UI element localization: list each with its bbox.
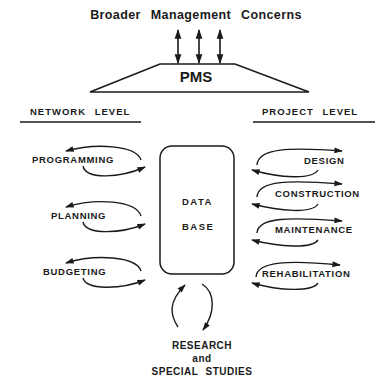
activity-programming: PROGRAMMING: [32, 154, 114, 165]
database-line2: BASE: [182, 221, 214, 232]
activity-budgeting: BUDGETING: [43, 266, 106, 277]
database-box: [160, 146, 234, 274]
pms-label: PMS: [0, 68, 392, 85]
network-level-heading: NETWORK LEVEL: [30, 106, 130, 117]
activity-maintenance: MAINTENANCE: [275, 224, 353, 235]
research-line1: RESEARCH: [122, 339, 282, 352]
research-loop-arrows: [172, 284, 212, 330]
project-level-heading: PROJECT LEVEL: [262, 106, 358, 117]
activity-rehabilitation: REHABILITATION: [262, 268, 351, 279]
activity-design: DESIGN: [304, 155, 345, 166]
activity-construction: CONSTRUCTION: [275, 188, 360, 199]
double-arrow-icons: [178, 30, 220, 63]
broader-concerns-title: Broader Management Concerns: [0, 8, 392, 22]
research-line2: and: [122, 352, 282, 365]
activity-planning: PLANNING: [51, 210, 106, 221]
research-line3: SPECIAL STUDIES: [122, 365, 282, 378]
database-line1: DATA: [182, 196, 213, 207]
